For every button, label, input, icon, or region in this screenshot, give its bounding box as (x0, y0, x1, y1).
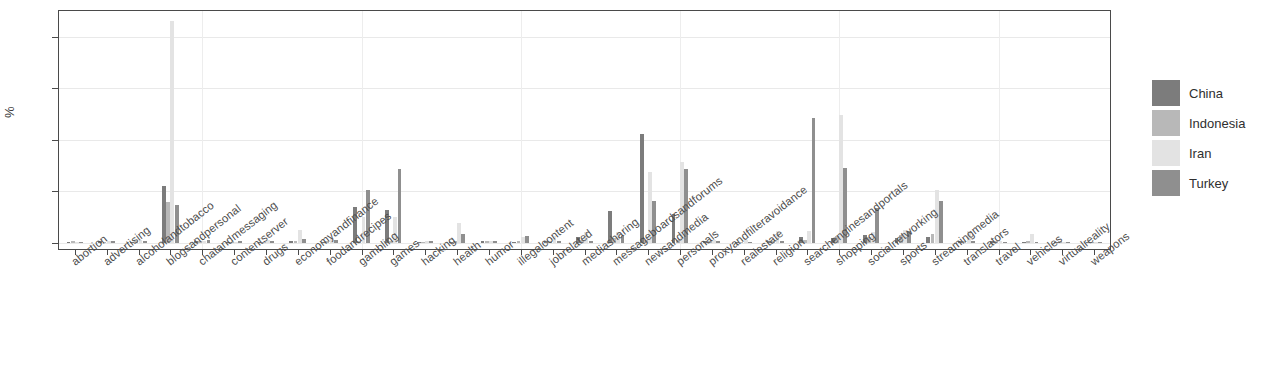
bars-layer (59, 11, 1110, 243)
bar-group (512, 11, 529, 243)
bar (557, 241, 561, 243)
bar-group (608, 11, 625, 243)
legend-swatch (1152, 140, 1180, 166)
bar (334, 240, 338, 243)
bar-group (703, 11, 720, 243)
bar (1066, 242, 1070, 243)
legend-label: Turkey (1189, 176, 1228, 191)
bar (270, 241, 274, 243)
bar (971, 241, 975, 243)
bar-group (895, 11, 912, 243)
bar (939, 201, 943, 243)
bar-group (799, 11, 816, 243)
bar-group (162, 11, 179, 243)
bar (111, 241, 115, 243)
legend-item-iran: Iran (1152, 138, 1272, 168)
bar (1035, 242, 1039, 243)
legend-item-turkey: Turkey (1152, 168, 1272, 198)
bar (1003, 242, 1007, 243)
bar (716, 241, 720, 243)
legend: ChinaIndonesiaIranTurkey (1152, 78, 1272, 198)
bar (640, 134, 644, 243)
legend-swatch (1152, 110, 1180, 136)
bar-group (385, 11, 402, 243)
bar-group (640, 11, 657, 243)
bar (302, 239, 306, 243)
bar (1098, 242, 1102, 243)
legend-item-indonesia: Indonesia (1152, 108, 1272, 138)
legend-swatch (1152, 170, 1180, 196)
bar-group (449, 11, 466, 243)
bar-group (417, 11, 434, 243)
bar (493, 241, 497, 243)
bar-group (1086, 11, 1103, 243)
bar-group (958, 11, 975, 243)
legend-label: China (1189, 86, 1223, 101)
bar-chart-figure: % 010203040 abortionadvertisingalcoholan… (0, 0, 1280, 392)
legend-item-china: China (1152, 78, 1272, 108)
bar (238, 241, 242, 243)
bar (748, 242, 752, 243)
bar-group (67, 11, 84, 243)
bar-group (130, 11, 147, 243)
bar-group (735, 11, 752, 243)
bar-group (544, 11, 561, 243)
bar (812, 118, 816, 243)
bar (143, 241, 147, 243)
bar (780, 241, 784, 243)
bar (429, 241, 433, 243)
bar-group (321, 11, 338, 243)
legend-label: Iran (1189, 146, 1211, 161)
legend-label: Indonesia (1189, 116, 1245, 131)
bar-group (481, 11, 498, 243)
bar (525, 236, 529, 243)
bar (461, 234, 465, 243)
y-axis-label: % (2, 106, 17, 118)
bar (398, 169, 402, 243)
bar-group (1054, 11, 1071, 243)
bar (207, 240, 211, 243)
bar-group (1022, 11, 1039, 243)
bar (79, 242, 83, 243)
bar-group (831, 11, 848, 243)
bar-group (98, 11, 115, 243)
bar-group (289, 11, 306, 243)
bar (589, 241, 593, 243)
bar-group (576, 11, 593, 243)
legend-swatch (1152, 80, 1180, 106)
